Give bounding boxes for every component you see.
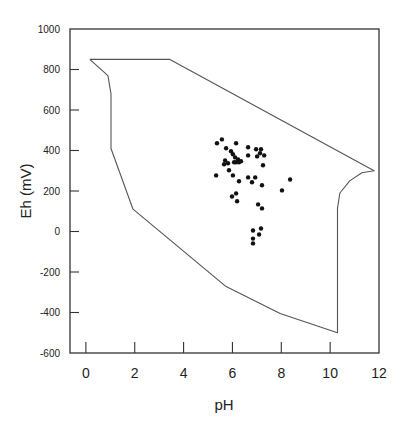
y-tick-label: 800 (43, 64, 60, 75)
data-point (231, 173, 235, 177)
data-point (250, 180, 254, 184)
data-point (253, 175, 257, 179)
data-point (235, 199, 239, 203)
y-tick-label: -200 (40, 267, 60, 278)
x-tick-label: 8 (277, 365, 285, 381)
data-point (246, 145, 250, 149)
data-point (214, 173, 218, 177)
data-point (262, 153, 266, 157)
data-point (280, 188, 284, 192)
data-point (251, 241, 255, 245)
x-axis: 024681012 (82, 342, 387, 381)
data-point (237, 179, 241, 183)
data-point (239, 159, 243, 163)
y-tick-label: 0 (54, 226, 60, 237)
data-point (234, 191, 238, 195)
x-tick-label: 10 (322, 365, 338, 381)
data-point (220, 137, 224, 141)
x-tick-label: 12 (371, 365, 387, 381)
plot-frame (70, 29, 379, 353)
data-point (256, 202, 260, 206)
data-point (246, 153, 250, 157)
y-tick-label: -400 (40, 307, 60, 318)
data-point (254, 147, 258, 151)
data-point (222, 162, 226, 166)
data-point (257, 232, 261, 236)
data-point (224, 146, 228, 150)
data-point (215, 141, 219, 145)
data-point (260, 183, 264, 187)
data-point (288, 177, 292, 181)
x-axis-title: pH (214, 396, 233, 413)
data-point (233, 155, 237, 159)
y-tick-label: -600 (40, 348, 60, 359)
data-point (261, 163, 265, 167)
data-point (251, 228, 255, 232)
data-point (226, 161, 230, 165)
data-point (260, 206, 264, 210)
data-point (259, 226, 263, 230)
x-tick-label: 4 (180, 365, 188, 381)
x-tick-label: 2 (131, 365, 139, 381)
y-axis: 10008006004002000-200-400-600 (38, 24, 79, 359)
eh-ph-scatter-chart: 10008006004002000-200-400-600 024681012 … (0, 0, 408, 436)
data-point (227, 168, 231, 172)
y-tick-label: 1000 (38, 24, 61, 35)
x-tick-label: 6 (229, 365, 237, 381)
y-axis-title: Eh (mV) (17, 163, 34, 218)
data-point (230, 194, 234, 198)
y-tick-label: 200 (43, 186, 60, 197)
data-point (259, 147, 263, 151)
data-point (246, 175, 250, 179)
data-points (214, 137, 292, 245)
x-tick-label: 0 (82, 365, 90, 381)
y-tick-label: 600 (43, 105, 60, 116)
data-point (258, 151, 262, 155)
data-point (234, 160, 238, 164)
y-tick-label: 400 (43, 145, 60, 156)
data-point (251, 236, 255, 240)
data-point (234, 141, 238, 145)
